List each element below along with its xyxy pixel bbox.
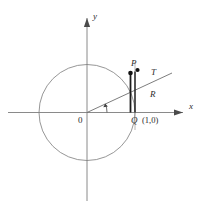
y-axis-label: y — [93, 12, 97, 21]
figure-canvas — [0, 0, 200, 207]
x-axis-label: x — [189, 102, 193, 111]
point-T-marker — [135, 68, 139, 72]
point-P-label: P — [131, 59, 137, 68]
point-T-label: T — [151, 68, 156, 77]
point-P-marker — [128, 71, 133, 76]
terminal-ray — [87, 73, 172, 113]
origin-label: 0 — [78, 116, 83, 125]
unit-point-label: (1,0) — [142, 116, 158, 125]
unit-circle-figure: y x 0 P T R Q (1,0) — [0, 0, 200, 207]
point-R-label: R — [150, 90, 156, 99]
y-axis-arrow-icon — [84, 18, 90, 27]
point-Q-label: Q — [131, 116, 138, 125]
x-axis-arrow-icon — [174, 109, 183, 115]
